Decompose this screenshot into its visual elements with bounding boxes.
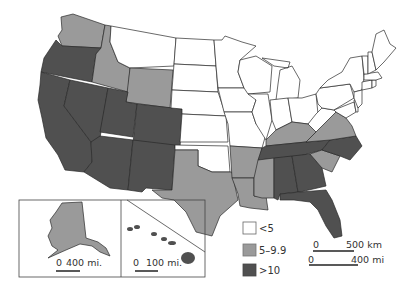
svg-text:0: 0 [56, 257, 62, 268]
legend-swatch-low [243, 222, 256, 234]
state-arizona [84, 136, 133, 190]
alaska [48, 202, 110, 258]
legend-swatch-high [243, 264, 256, 276]
state-mississippi [254, 158, 274, 198]
state-south-dakota [172, 64, 218, 92]
svg-text:0: 0 [313, 239, 319, 250]
svg-text:<5: <5 [259, 223, 274, 234]
legend-swatch-mid [243, 244, 256, 256]
state-rhode-island [372, 80, 376, 88]
state-florida [280, 190, 342, 238]
svg-text:>10: >10 [259, 265, 280, 276]
state-connecticut [362, 80, 372, 90]
state-new-mexico [128, 140, 175, 192]
svg-text:500 km: 500 km [346, 239, 382, 250]
state-washington [58, 14, 105, 48]
state-north-dakota [174, 38, 216, 66]
legend: <5 5–9.9 >10 [243, 222, 286, 276]
state-wyoming [126, 68, 173, 108]
svg-text:400 mi.: 400 mi. [66, 257, 102, 268]
svg-text:400 mi: 400 mi [351, 254, 384, 265]
svg-text:5–9.9: 5–9.9 [259, 245, 286, 256]
svg-text:100 mi.: 100 mi. [146, 257, 182, 268]
svg-text:0: 0 [133, 257, 139, 268]
us-choropleth-map: 0 400 mi. 0 100 mi. <5 5–9.9 >10 0 500 k… [0, 0, 405, 291]
state-kansas [180, 114, 228, 142]
svg-text:0: 0 [308, 254, 314, 265]
state-maine [372, 30, 396, 70]
state-montana [110, 26, 176, 68]
